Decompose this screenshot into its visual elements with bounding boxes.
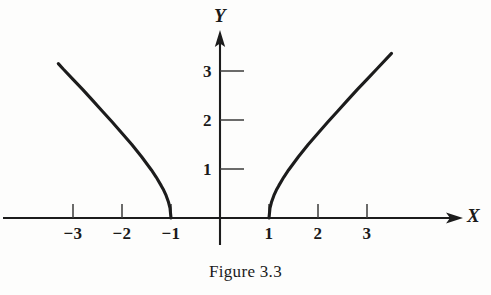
plot-canvas — [0, 0, 491, 295]
y-tick-label-2: 2 — [203, 112, 212, 129]
y-tick-label-1: 1 — [203, 161, 212, 178]
x-tick-label--3: −3 — [63, 225, 82, 242]
x-tick-label--2: −2 — [112, 225, 131, 242]
x-tick-label--1: −1 — [161, 225, 180, 242]
curve-right-branch — [269, 53, 392, 218]
x-tick-label-2: 2 — [314, 225, 323, 242]
y-axis-label: Y — [214, 6, 226, 25]
figure-caption: Figure 3.3 — [0, 262, 491, 282]
y-tick-label-3: 3 — [203, 63, 212, 80]
figure-container: −3 −2 −1 1 2 3 1 2 3 X Y Figure 3.3 — [0, 0, 491, 295]
x-tick-label-3: 3 — [363, 225, 372, 242]
x-tick-label-1: 1 — [265, 225, 274, 242]
curve-left-branch — [58, 64, 171, 218]
x-axis-label: X — [467, 206, 480, 225]
